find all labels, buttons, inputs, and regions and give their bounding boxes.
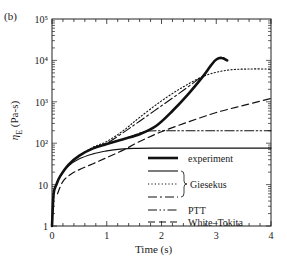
series-giesekus-dotted [68, 69, 271, 165]
series-giesekus-solid [52, 148, 271, 226]
series-white-tokita [58, 99, 272, 194]
legend-label-giesekus: Giesekus [190, 179, 227, 190]
legend-label-experiment: experiment [188, 153, 233, 164]
x-axis-label: Time (s) [135, 243, 172, 255]
x-tick-label: 3 [214, 230, 219, 241]
x-tick-label: 4 [269, 230, 274, 241]
y-tick-label: 10³ [35, 97, 48, 108]
y-tick-label: 10⁵ [35, 14, 49, 25]
legend-brace [181, 171, 187, 197]
x-tick-label: 0 [50, 230, 55, 241]
legend-label-ptt: PTT [188, 205, 206, 216]
legend-label-white-tokita: White–Tokita [188, 217, 243, 228]
x-tick-label: 2 [159, 230, 164, 241]
data-series [52, 58, 271, 226]
legend: experimentGiesekusPTTWhite–Tokita [148, 153, 243, 228]
y-tick-label: 10² [35, 138, 48, 149]
y-tick-label: 10⁴ [35, 55, 49, 66]
y-axis-label: ηE (Pa-s) [8, 91, 23, 151]
y-tick-label: 1 [43, 221, 48, 232]
y-tick-label: 10 [38, 180, 48, 191]
chart-plot: 0123411010²10³10⁴10⁵ experimentGiesekusP… [0, 0, 287, 274]
x-tick-label: 1 [104, 230, 109, 241]
